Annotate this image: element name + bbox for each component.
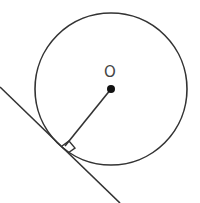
- diagram-canvas: O: [0, 0, 200, 203]
- center-point: [107, 85, 115, 93]
- center-label: O: [104, 63, 116, 81]
- radius-segment: [65, 89, 111, 146]
- tangent-line: [0, 87, 120, 203]
